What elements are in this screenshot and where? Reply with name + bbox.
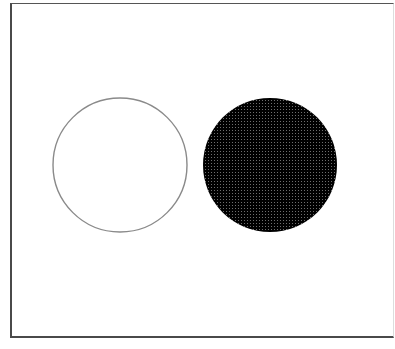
filled-circle (203, 98, 337, 232)
figure-canvas (0, 0, 395, 349)
open-circle (53, 98, 187, 232)
